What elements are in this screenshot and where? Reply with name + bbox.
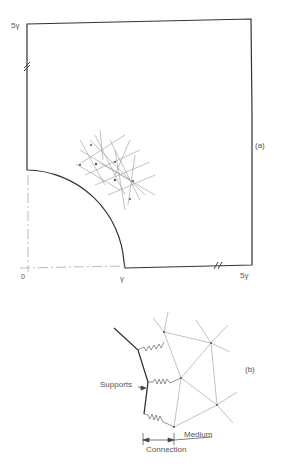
medium-nodes	[163, 331, 218, 428]
support-boundary	[114, 328, 148, 414]
label-top-left: 5γ	[11, 21, 19, 30]
medium-label: Medium	[184, 430, 213, 439]
medium-elements	[153, 312, 237, 427]
label-r: γ	[120, 274, 124, 283]
label-origin: 0	[21, 273, 25, 280]
connection-springs	[138, 342, 181, 427]
figure-a-boundary	[27, 19, 252, 268]
diagram-canvas: 5γ (a) 0 γ 5γ	[0, 0, 285, 464]
figure-a-label: (a)	[255, 141, 265, 150]
connection-label: Connection	[146, 445, 186, 454]
figure-b-label: (b)	[245, 365, 255, 374]
label-bottom-right: 5γ	[240, 271, 248, 280]
symmetry-axes	[20, 175, 125, 272]
supports-label: Supports	[100, 380, 132, 389]
finite-element-mesh	[76, 130, 155, 210]
